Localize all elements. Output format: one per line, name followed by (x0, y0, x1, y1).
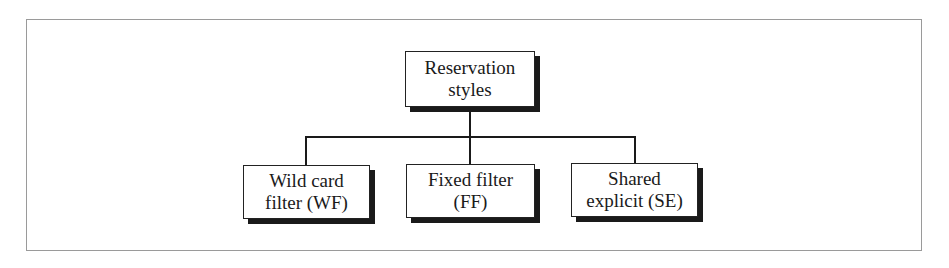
connector-to-wf (305, 136, 307, 165)
node-wild-card-filter: Wild card filter (WF) (243, 165, 370, 219)
node-label-line-2: (FF) (454, 191, 488, 213)
connector-to-se (634, 136, 636, 163)
node-reservation-styles: Reservation styles (405, 51, 535, 107)
node-label-line-1: Wild card (269, 170, 344, 192)
node-label-line-2: styles (448, 79, 491, 101)
node-label-line-2: filter (WF) (265, 192, 348, 214)
node-label-line-1: Fixed filter (428, 169, 513, 191)
node-shared-explicit: Shared explicit (SE) (571, 163, 698, 217)
node-label-line-2: explicit (SE) (586, 190, 683, 212)
node-label-line-1: Shared (608, 168, 661, 190)
connector-to-ff (469, 136, 471, 164)
connector-root-down (469, 106, 471, 137)
node-fixed-filter: Fixed filter (FF) (406, 164, 535, 218)
node-label-line-1: Reservation (425, 57, 516, 79)
